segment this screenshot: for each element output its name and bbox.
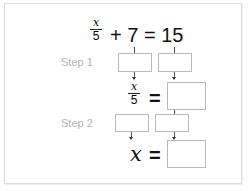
step-1-left-input[interactable]: [118, 53, 152, 72]
equation-rest: + 7 = 15: [110, 25, 183, 45]
final-result-input[interactable]: [167, 140, 206, 168]
intermediate-result-input[interactable]: [167, 82, 206, 110]
step-2-right-input[interactable]: [155, 114, 189, 132]
intermediate-fraction: x 5: [128, 82, 140, 106]
arrow-down-icon: [172, 77, 176, 80]
equation-fraction: x 5: [90, 18, 102, 42]
step-1-label: Step 1: [61, 56, 93, 68]
step-1-right-input[interactable]: [158, 53, 192, 72]
fraction-numerator: x: [90, 18, 102, 28]
intermediate-equals: =: [149, 88, 161, 108]
fraction-denominator: 5: [90, 31, 102, 42]
arrow-down-icon: [129, 137, 133, 140]
step-2-label: Step 2: [61, 117, 93, 129]
final-equals: =: [149, 145, 161, 165]
fraction-numerator: x: [128, 82, 140, 92]
final-variable: x: [130, 144, 142, 164]
step-2-left-input[interactable]: [115, 114, 149, 132]
fraction-denominator: 5: [128, 95, 140, 106]
